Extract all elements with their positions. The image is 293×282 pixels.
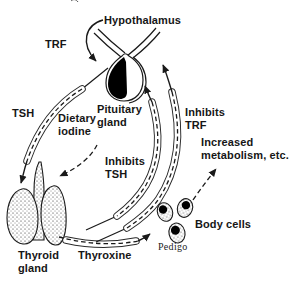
body-cell xyxy=(175,197,195,220)
inhibits-trf-label-line1: Inhibits xyxy=(185,106,225,119)
pituitary-gland-label: Pituitary gland xyxy=(97,103,142,128)
hypothalamus-right-branch-inner xyxy=(133,32,160,58)
thyroid-gland-label-line1: Thyroid xyxy=(18,249,59,262)
increased-metabolism-arrow xyxy=(193,169,216,200)
tsh-vessel-lead-line xyxy=(82,68,108,89)
feedback-loop-diagram: Hypothalamus TRF TSH Pituitary gland Die… xyxy=(0,0,293,282)
print-artifact xyxy=(71,0,78,2)
increased-metabolism-label-line2: metabolism, etc. xyxy=(201,149,289,162)
hypothalamus-pituitary-drawing xyxy=(94,28,160,103)
hypothalamus-label: Hypothalamus xyxy=(104,14,181,27)
thyroid-gland-label: Thyroid gland xyxy=(18,249,59,274)
increased-metabolism-label-line1: Increased xyxy=(201,136,289,149)
thyroid-gland-label-line2: gland xyxy=(18,262,59,275)
inhibits-tsh-label-line1: Inhibits xyxy=(105,155,145,168)
trf-arrow xyxy=(86,20,103,61)
thyroxine-vessel xyxy=(59,234,150,244)
thyroxine-arrow xyxy=(138,234,150,241)
pituitary-gland-shape xyxy=(108,57,127,99)
thyroid-left-lobe xyxy=(7,189,38,244)
pituitary-gland-label-line2: gland xyxy=(97,116,142,129)
body-cells-drawing xyxy=(155,197,195,245)
dietary-iodine-label: Dietary iodine xyxy=(58,112,96,137)
pituitary-gland-label-line1: Pituitary xyxy=(97,103,142,116)
body-cells-label: Body cells xyxy=(195,218,251,231)
dietary-iodine-arrow xyxy=(60,145,97,176)
dietary-iodine-label-line2: iodine xyxy=(58,125,96,138)
tsh-label: TSH xyxy=(12,107,34,120)
inhibits-trf-arrow xyxy=(163,65,172,92)
inner-vessel-tail xyxy=(86,216,117,230)
inhibits-tsh-arrow xyxy=(145,86,152,102)
inhibits-tsh-label: Inhibits TSH xyxy=(105,155,145,180)
illustrator-credit: Pedigo xyxy=(158,241,188,252)
inhibits-tsh-label-line2: TSH xyxy=(105,168,145,181)
hypothalamus-left-branch xyxy=(94,33,121,57)
thyroid-drawing xyxy=(7,162,66,245)
tsh-arrow xyxy=(21,161,27,183)
thyroid-right-lobe xyxy=(41,186,66,245)
increased-metabolism-label: Increased metabolism, etc. xyxy=(201,136,289,161)
thyroxine-label: Thyroxine xyxy=(78,249,131,262)
inhibits-trf-label: Inhibits TRF xyxy=(185,106,225,131)
dietary-iodine-label-line1: Dietary xyxy=(58,112,96,125)
inhibits-trf-label-line2: TRF xyxy=(185,119,225,132)
trf-label: TRF xyxy=(45,38,67,51)
